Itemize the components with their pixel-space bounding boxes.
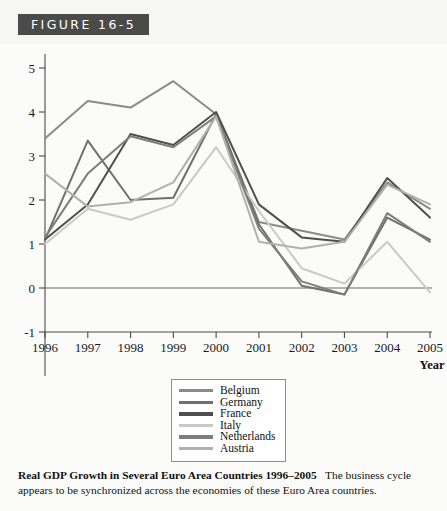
x-axis-tick-label: 2001 bbox=[246, 340, 272, 355]
legend-swatch-italy bbox=[179, 424, 213, 427]
y-axis-tick-label: 5 bbox=[29, 61, 36, 76]
legend-swatch-germany bbox=[179, 401, 213, 404]
x-axis-tick-label: 2004 bbox=[374, 340, 401, 355]
chart-plot-area: 543210-119961997199819992000200120022003… bbox=[0, 44, 447, 384]
y-axis-tick-label: 3 bbox=[29, 149, 36, 164]
legend-swatch-france bbox=[179, 412, 213, 415]
y-axis-tick-label: 4 bbox=[29, 105, 36, 120]
series-line-austria bbox=[45, 116, 430, 248]
legend-label-belgium: Belgium bbox=[220, 385, 260, 397]
legend-swatch-austria bbox=[179, 447, 213, 450]
figure-container: FIGURE 16-5 543210-119961997199819992000… bbox=[0, 0, 447, 511]
legend-item[interactable]: Austria bbox=[179, 443, 278, 455]
figure-number-banner: FIGURE 16-5 bbox=[18, 14, 149, 35]
y-axis-tick-label: 0 bbox=[29, 281, 36, 296]
chart-legend: Belgium Germany France Italy Netherlands… bbox=[171, 379, 286, 462]
line-chart-svg: 543210-119961997199819992000200120022003… bbox=[0, 44, 447, 384]
legend-label-austria: Austria bbox=[220, 443, 254, 455]
x-axis-tick-label: 1998 bbox=[118, 340, 144, 355]
figure-caption: Real GDP Growth in Several Euro Area Cou… bbox=[18, 468, 432, 497]
figure-number-label: FIGURE 16-5 bbox=[31, 17, 136, 32]
legend-item[interactable]: Belgium bbox=[179, 385, 278, 397]
x-axis-tick-label: 1997 bbox=[75, 340, 102, 355]
series-layer bbox=[45, 81, 430, 294]
y-axis-tick-label: 1 bbox=[29, 237, 36, 252]
x-axis-tick-label: 2003 bbox=[331, 340, 357, 355]
caption-title: Real GDP Growth in Several Euro Area Cou… bbox=[18, 469, 317, 481]
x-axis-title: Year bbox=[420, 358, 445, 372]
axis-label-layer: 543210-119961997199819992000200120022003… bbox=[24, 61, 445, 373]
legend-swatch-netherlands bbox=[179, 435, 213, 438]
legend-swatch-belgium bbox=[179, 389, 213, 392]
y-axis-tick-label: 2 bbox=[29, 193, 36, 208]
y-axis-tick-label: -1 bbox=[24, 325, 35, 340]
x-axis-tick-label: 2000 bbox=[203, 340, 229, 355]
x-axis-tick-label: 1996 bbox=[32, 340, 59, 355]
x-axis-tick-label: 2005 bbox=[417, 340, 443, 355]
x-axis-tick-label: 2002 bbox=[289, 340, 315, 355]
x-axis-tick-label: 1999 bbox=[160, 340, 186, 355]
